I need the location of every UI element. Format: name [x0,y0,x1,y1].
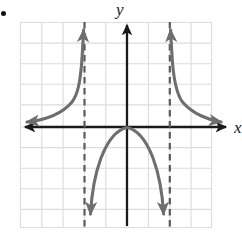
graph-figure: y x [0,0,242,235]
plot-background [20,22,212,228]
coordinate-plane [0,0,242,235]
